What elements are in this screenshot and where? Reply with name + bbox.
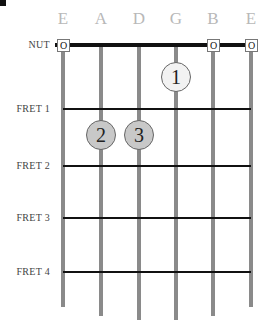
string-line (211, 45, 215, 316)
string-label-e-high: E (241, 9, 261, 29)
string-line (249, 45, 253, 307)
fret-label-1: FRET 1 (0, 103, 50, 114)
string-line (61, 45, 65, 307)
string-line (137, 45, 141, 320)
string-label-e-low: E (53, 9, 73, 29)
finger-dot-1: 1 (161, 62, 191, 92)
corner-mark (0, 0, 6, 6)
fret-label-4: FRET 4 (0, 266, 50, 277)
fret-line-2 (63, 165, 251, 167)
string-label-b: B (203, 9, 223, 29)
string-label-d: D (129, 9, 149, 29)
finger-dot-3: 3 (124, 120, 154, 150)
finger-dot-2: 2 (86, 120, 116, 150)
open-string-marker-e-high: O (245, 39, 258, 52)
string-label-a: A (91, 9, 111, 29)
fret-line-3 (63, 217, 251, 219)
nut-line (55, 43, 258, 47)
open-string-marker-e-low: O (57, 39, 70, 52)
string-label-g: G (166, 9, 186, 29)
open-string-marker-b: O (207, 39, 220, 52)
string-line (99, 45, 103, 316)
nut-label: NUT (0, 39, 50, 50)
fret-label-3: FRET 3 (0, 212, 50, 223)
fret-label-2: FRET 2 (0, 160, 50, 171)
fret-line-1 (63, 108, 251, 110)
fret-line-4 (63, 271, 251, 273)
